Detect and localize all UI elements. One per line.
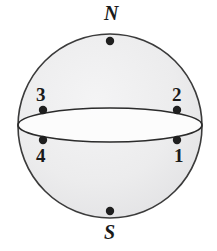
label-point-1: 1 [174, 146, 184, 165]
point-marker-point-1 [173, 136, 181, 144]
sphere-diagram: N3241S [0, 0, 217, 251]
label-point-2: 2 [172, 85, 182, 104]
label-point-3: 3 [36, 85, 46, 104]
label-north-pole: N [104, 3, 118, 23]
point-marker-south-pole [106, 207, 114, 215]
point-marker-point-3 [39, 106, 47, 114]
label-point-4: 4 [36, 146, 46, 165]
point-marker-north-pole [106, 37, 114, 45]
label-south-pole: S [104, 222, 115, 242]
sphere-figure-canvas [0, 0, 217, 251]
point-marker-point-2 [173, 106, 181, 114]
point-marker-point-4 [39, 136, 47, 144]
